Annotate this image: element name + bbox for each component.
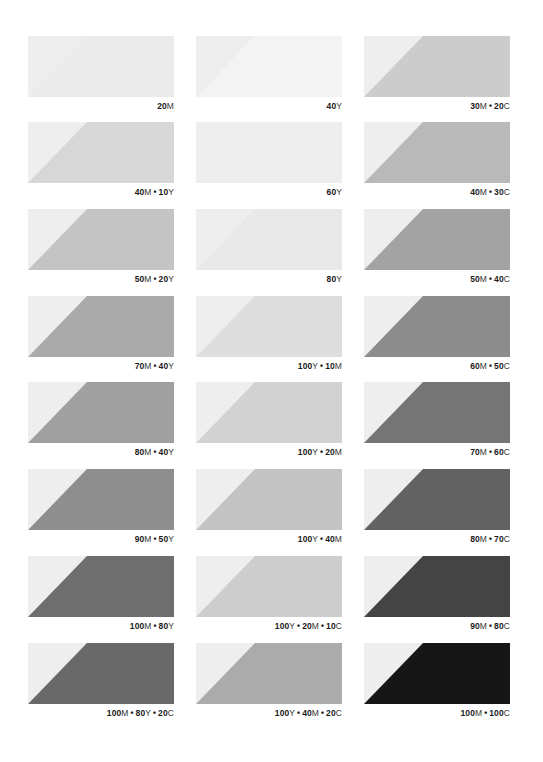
tint-percent: 100 [298,361,312,371]
separator-dot: • [151,187,158,197]
color-swatch [28,643,174,704]
swatch-graphic [196,209,342,270]
ink-letter: C [504,447,510,457]
swatch-cell-left-5: 80M•40Y [28,382,174,460]
separator-dot: • [129,708,136,718]
swatch-cell-right-2: 40M•30C [364,122,510,200]
ink-letter: Y [336,101,342,111]
swatch-cell-right-1: 30M•20C [364,36,510,114]
color-swatch [196,556,342,617]
swatch-graphic [196,382,342,443]
swatch-graphic [196,643,342,704]
swatch-label: 20M [157,101,174,112]
tint-percent: 80 [494,621,504,631]
separator-dot: • [151,534,158,544]
swatch-cell-right-7: 90M•80C [364,556,510,634]
ink-letter: Y [336,187,342,197]
swatch-graphic [364,556,510,617]
swatch-cell-left-1: 20M [28,36,174,114]
color-swatch [364,469,510,530]
swatch-graphic [28,209,174,270]
swatch-cell-middle-7: 100Y•20M•10C [196,556,342,634]
ink-letter: M [480,621,487,631]
swatch-label: 100Y•20M•10C [275,621,342,632]
tint-percent: 90 [470,621,480,631]
swatch-cell-left-2: 40M•10Y [28,122,174,200]
tint-percent: 40 [325,534,335,544]
ink-letter: C [504,708,510,718]
color-swatch [364,122,510,183]
tint-percent: 100 [298,534,312,544]
tint-percent: 20 [494,101,504,111]
ink-letter: Y [168,361,174,371]
color-swatch [196,469,342,530]
tint-percent: 50 [494,361,504,371]
swatch-label: 50M•40C [470,274,510,285]
swatch-cell-middle-8: 100Y•40M•20C [196,643,342,721]
swatch-cell-middle-5: 100Y•20M [196,382,342,460]
color-swatch [364,296,510,357]
ink-letter: M [167,101,174,111]
swatch-label: 60M•50C [470,361,510,372]
swatch-label: 80M•70C [470,534,510,545]
ink-letter: Y [168,534,174,544]
ink-letter: Y [168,274,174,284]
tint-percent: 60 [470,361,480,371]
swatch-label: 40Y [327,101,342,112]
color-swatch [28,36,174,97]
color-swatch [196,296,342,357]
swatch-label: 90M•50Y [135,534,174,545]
swatch-label: 90M•80C [470,621,510,632]
tint-percent: 80 [470,534,480,544]
swatch-label: 60Y [327,187,342,198]
color-swatch [196,643,342,704]
tint-percent: 40 [327,101,337,111]
ink-letter: Y [168,447,174,457]
tint-percent: 80 [159,621,169,631]
tint-percent: 20 [325,447,335,457]
swatch-graphic [364,469,510,530]
ink-letter: C [336,621,342,631]
swatch-graphic [28,643,174,704]
ink-letter: C [504,534,510,544]
swatch-label: 30M•20C [470,101,510,112]
color-swatch [364,643,510,704]
tint-percent: 70 [470,447,480,457]
tint-percent: 10 [326,621,336,631]
ink-letter: M [312,621,319,631]
swatch-cell-middle-1: 40Y [196,36,342,114]
ink-letter: Y [168,187,174,197]
swatch-cell-right-4: 60M•50C [364,296,510,374]
tint-percent: 100 [489,708,503,718]
swatch-graphic [196,296,342,357]
swatch-label: 100Y•40M•20C [275,708,342,719]
swatch-cell-middle-2: 60Y [196,122,342,200]
swatch-graphic [364,36,510,97]
swatch-label: 100M•100C [461,708,510,719]
tint-percent: 100 [130,621,144,631]
color-swatch [364,382,510,443]
color-swatch [28,296,174,357]
swatch-cell-middle-4: 100Y•10M [196,296,342,374]
tint-percent: 10 [325,361,335,371]
tint-percent: 60 [494,447,504,457]
tint-percent: 70 [494,534,504,544]
swatch-graphic [364,296,510,357]
swatch-graphic [28,122,174,183]
swatch-label: 70M•40Y [135,361,174,372]
color-swatch [28,469,174,530]
tint-percent: 30 [494,187,504,197]
color-swatch [28,556,174,617]
ink-letter: M [335,534,342,544]
tint-percent: 100 [275,621,289,631]
ink-letter: M [312,708,319,718]
ink-letter: M [480,187,487,197]
swatch-label: 40M•10Y [135,187,174,198]
tint-percent: 40 [302,708,312,718]
tint-percent: 100 [107,708,121,718]
separator-dot: • [151,447,158,457]
swatch-label: 70M•60C [470,447,510,458]
swatch-label: 100M•80Y•20C [107,708,174,719]
swatch-cell-right-3: 50M•40C [364,209,510,287]
tint-percent: 50 [159,534,169,544]
